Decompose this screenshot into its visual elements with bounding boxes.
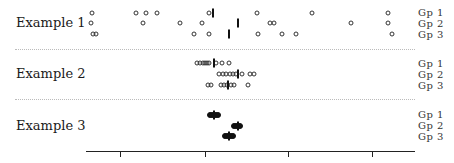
median-marker [228,30,230,39]
median-marker [237,19,239,28]
data-point [386,11,391,16]
median-marker [237,70,239,79]
data-point [207,11,212,16]
data-point [207,61,212,66]
data-point [94,32,99,37]
x-axis-tick [372,151,373,157]
data-point [215,112,221,118]
group-label: Gp 3 [418,131,444,142]
data-point [144,11,149,16]
median-marker [213,111,215,120]
data-point [252,72,257,77]
data-point [272,21,277,26]
data-point [207,32,212,37]
data-point [246,83,251,88]
data-point [280,32,285,37]
median-marker [213,59,215,68]
data-point [230,133,236,139]
group-label: Gp 1 [418,58,444,69]
median-marker [212,9,214,18]
data-point [390,32,395,37]
median-marker [228,132,230,141]
median-marker [227,81,229,90]
panel-label-example-1: Example 1 [16,15,85,30]
data-point [89,21,94,26]
data-point [227,61,232,66]
data-point [386,21,391,26]
data-point [220,61,225,66]
group-label: Gp 1 [418,7,444,18]
strip-chart: Example 1 Example 2 Example 3 Gp 1 Gp 2 … [0,0,454,163]
data-point [178,21,183,26]
group-label: Gp 3 [418,29,444,40]
panel-divider [15,49,415,50]
data-point [240,72,245,77]
data-point [141,21,146,26]
data-point [232,83,237,88]
group-label: Gp 2 [418,69,444,80]
data-point [255,11,260,16]
data-point [200,21,205,26]
x-axis-tick [120,151,121,157]
x-axis-tick [205,151,206,157]
x-axis-tick [288,151,289,157]
panel-label-example-2: Example 2 [16,66,85,81]
data-point [349,21,354,26]
data-point [155,11,160,16]
group-label: Gp 2 [418,120,444,131]
panel-label-example-3: Example 3 [16,118,85,133]
data-point [310,11,315,16]
data-point [209,83,214,88]
panel-divider [15,99,415,100]
data-point [192,32,197,37]
data-point [134,11,139,16]
median-marker [237,122,239,131]
data-point [294,32,299,37]
group-label: Gp 3 [418,80,444,91]
group-label: Gp 1 [418,109,444,120]
data-point [256,32,261,37]
group-label: Gp 2 [418,18,444,29]
data-point [90,11,95,16]
x-axis [86,151,415,152]
